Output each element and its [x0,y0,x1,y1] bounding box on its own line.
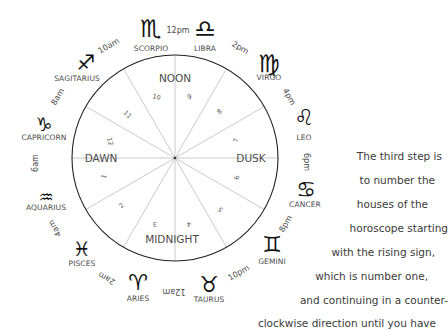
sign-virgo: ♍ VIRGO [257,50,282,82]
sign-taurus: ♉ TAURUS [193,272,225,304]
house-number-8: 8 [215,107,224,116]
house-number-3: 3 [153,220,157,228]
sign-name-scorpio: SCORPIO [134,44,168,53]
sign-name-gemini: GEMINI [258,257,286,266]
time-12am: 12am [162,287,185,296]
time-2am: 2am [97,270,117,287]
caption-line-5: with the rising sign, [331,246,435,258]
sign-name-capricorn: CAPRICORN [21,133,66,142]
aries-icon: ♈ [128,270,148,295]
sign-sagitarius: ♐ SAGITARIUS [54,51,100,83]
caption-line-8: clockwise direction until you have [258,317,436,329]
wheel-center [174,157,177,160]
gemini-icon: ♊ [262,232,282,257]
sign-name-aquarius: AQUARIUS [26,203,66,212]
time-10pm: 10pm [227,263,252,282]
sign-name-virgo: VIRGO [257,73,282,82]
sign-name-aries: ARIES [127,294,150,303]
caption-line-3: houses of the [357,198,428,210]
time-8pm: 8pm [277,214,294,234]
time-10am: 10am [97,36,121,55]
scorpio-icon: ♏ [140,15,162,43]
time-2pm: 2pm [230,39,250,56]
house-number-5: 5 [216,205,225,214]
time-12pm: 12pm [166,26,189,35]
time-4am: 4am [46,218,63,238]
caption-line-2: to number the [360,174,435,186]
sign-aries: ♈ ARIES [127,270,150,303]
house-number-4: 4 [187,220,191,228]
quarter-dusk: DUSK [236,152,266,164]
sign-name-pisces: PISCES [69,259,96,268]
house-number-7: 7 [232,137,241,143]
house-number-9: 9 [186,93,192,102]
sign-aquarius: ♒ AQUARIUS [26,187,66,212]
quarter-midnight: MIDNIGHT [145,233,199,245]
time-6am: 6am [31,154,40,172]
sign-libra: ♎ LIBRA [194,15,217,53]
sign-gemini: ♊ GEMINI [258,232,286,266]
sign-pisces: ♓ PISCES [69,237,96,268]
taurus-icon: ♉ [199,272,219,297]
pisces-icon: ♓ [73,237,91,261]
caption-line-6: which is number one, [315,270,428,282]
capricorn-icon: ♑ [35,113,52,135]
house-number-11: 11 [122,109,134,121]
quarter-dawn: DAWN [85,152,118,164]
sign-scorpio: ♏ SCORPIO [134,15,168,53]
time-6pm: 6pm [302,153,311,171]
sign-name-leo: LEO [296,133,311,142]
quarter-noon: NOON [159,72,191,84]
time-8am: 8am [49,87,66,107]
house-number-2: 2 [117,201,126,210]
time-4pm: 4pm [281,87,298,107]
caption-line-7: and continuing in a counter- [300,294,448,306]
sign-name-libra: LIBRA [194,44,217,53]
sign-leo: ♌ LEO [294,105,314,142]
libra-icon: ♎ [194,15,216,43]
house-number-6: 6 [233,174,242,180]
cancer-icon: ♋ [296,177,316,202]
leo-icon: ♌ [294,105,314,130]
house-number-10: 10 [151,92,161,102]
caption-line-1: The third step is [357,150,442,162]
sign-cancer: ♋ CANCER [289,177,321,209]
house-number-1: 1 [100,173,109,179]
sign-name-sagitarius: SAGITARIUS [54,74,100,83]
house-number-12: 12 [105,136,115,146]
sign-name-taurus: TAURUS [193,295,225,304]
caption-line-4: horoscope starting [350,222,448,234]
sagittarius-icon: ♐ [77,51,96,75]
sign-capricorn: ♑ CAPRICORN [21,113,66,142]
sign-name-cancer: CANCER [289,200,321,209]
